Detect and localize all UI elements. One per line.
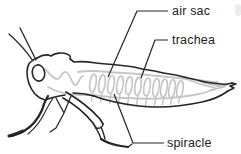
leader-air-sac xyxy=(108,11,168,77)
front-leg xyxy=(9,96,53,136)
antenna-right xyxy=(20,28,36,60)
tracheal-system xyxy=(46,70,226,106)
dorsal-outline xyxy=(37,53,232,84)
eye xyxy=(31,64,46,82)
hind-leg xyxy=(63,92,132,147)
scan-artifact-smudge xyxy=(235,4,241,16)
label-trachea: trachea xyxy=(172,33,215,47)
diagram-canvas: air sac trachea spiracle xyxy=(0,0,241,154)
tail-trachea-network xyxy=(186,79,226,94)
label-air-sac: air sac xyxy=(172,4,210,18)
grasshopper-illustration xyxy=(0,0,241,154)
label-spiracle: spiracle xyxy=(167,136,212,150)
leader-spiracle xyxy=(114,94,164,143)
